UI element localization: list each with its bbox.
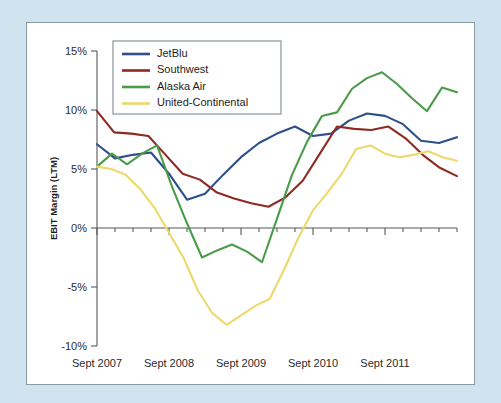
legend-layer: JetBluSouthwestAlaska AirUnited-Continen… — [113, 41, 281, 114]
y-tick-label: -10% — [61, 340, 87, 352]
y-tick-label: 5% — [71, 163, 87, 175]
y-tick-label: 0% — [71, 222, 87, 234]
x-tick-label: Sept 2011 — [360, 357, 409, 369]
x-tick-label: Sept 2009 — [216, 357, 266, 369]
x-tick-label: Sept 2010 — [288, 357, 338, 369]
y-tick-label: 15% — [65, 45, 87, 57]
figure-root: 15%10%5%0%-5%-10%Sept 2007Sept 2008Sept … — [0, 0, 501, 403]
legend-label-southwest: Southwest — [157, 63, 208, 75]
line-chart-plot: 15%10%5%0%-5%-10%Sept 2007Sept 2008Sept … — [27, 23, 473, 383]
chart-panel: 15%10%5%0%-5%-10%Sept 2007Sept 2008Sept … — [26, 22, 475, 385]
y-tick-label: 10% — [65, 104, 87, 116]
series-line-united-continental — [97, 145, 457, 324]
x-tick-label: Sept 2007 — [72, 357, 122, 369]
y-tick-label: -5% — [67, 281, 87, 293]
legend-label-united-continental: United-Continental — [157, 96, 248, 108]
x-tick-label: Sept 2008 — [144, 357, 194, 369]
y-axis-title: EBIT Margin (LTM) — [48, 157, 59, 240]
legend-label-alaska-air: Alaska Air — [157, 80, 206, 92]
legend-label-jetblu: JetBlu — [157, 47, 188, 59]
